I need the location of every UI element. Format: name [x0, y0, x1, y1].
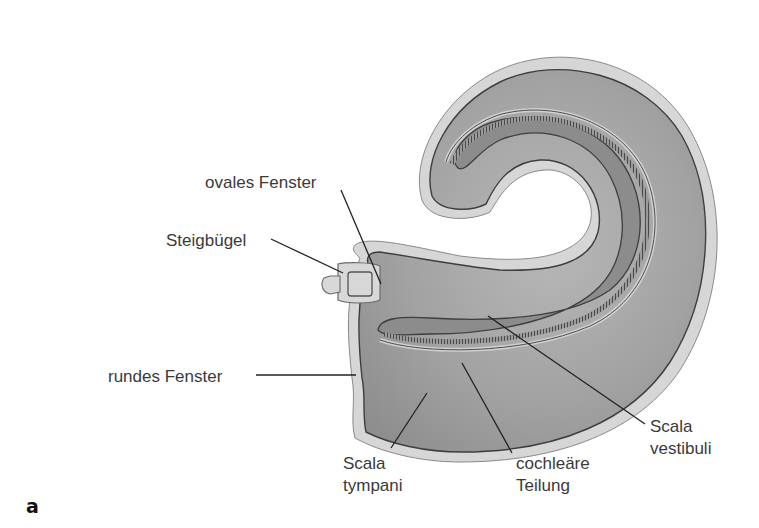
label-scala-tympani-line2: tympani [343, 476, 403, 495]
panel-label: a [26, 495, 39, 517]
label-rundes-fenster: rundes Fenster [108, 367, 223, 386]
label-scala-vestibuli-line1: Scala [650, 417, 693, 436]
label-cochleare-teilung-line1: cochleäre [516, 454, 590, 473]
cochlea-diagram: ovales Fenster Steigbügel rundes Fenster… [0, 0, 759, 528]
label-scala-tympani-line1: Scala [343, 454, 386, 473]
leader-steigbuegel [271, 239, 343, 273]
label-ovales-fenster: ovales Fenster [205, 173, 317, 192]
label-cochleare-teilung-line2: Teilung [516, 476, 570, 495]
label-steigbuegel: Steigbügel [166, 231, 246, 250]
stapes [322, 263, 380, 303]
label-scala-vestibuli-line2: vestibuli [650, 439, 711, 458]
